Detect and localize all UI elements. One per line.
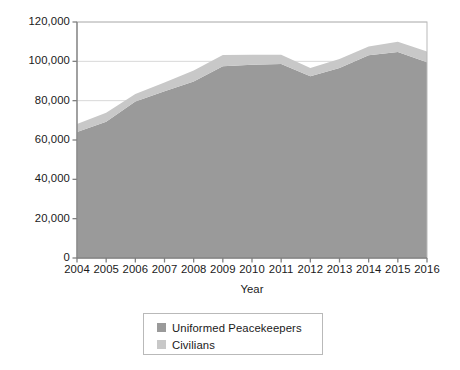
legend-label: Uniformed Peacekeepers [172,322,302,334]
x-axis-title: Year [77,283,427,295]
area-series [77,52,427,258]
legend-item: Uniformed Peacekeepers [157,320,322,335]
legend-swatch-civilians [157,340,166,349]
legend-item: Civilians [157,337,322,352]
stacked-area-chart: Number of Peacekeepers 020,00040,00060,0… [0,0,460,370]
legend-label: Civilians [172,339,215,351]
chart-legend: Uniformed Peacekeepers Civilians [143,313,323,355]
x-axis-tick-label: 2016 [410,263,444,275]
legend-swatch-uniformed-peacekeepers [157,323,166,332]
